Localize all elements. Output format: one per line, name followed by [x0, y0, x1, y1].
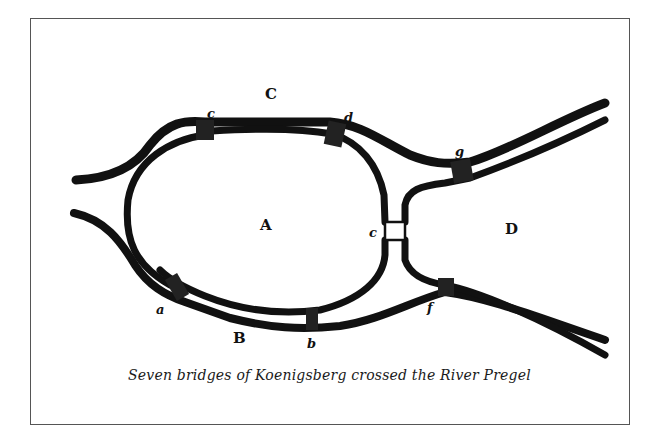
bridge-b: [306, 308, 318, 330]
bridge-label-d: d: [344, 110, 353, 125]
figure-caption: Seven bridges of Koenigsberg crossed the…: [0, 367, 659, 383]
bridge-label-b: b: [307, 336, 316, 351]
river-bank-island-top: [212, 129, 385, 222]
bridge-e: [385, 222, 405, 240]
land-label-d: D: [505, 220, 518, 238]
bridge-c: [196, 120, 214, 140]
land-label-a: A: [259, 216, 272, 234]
bridge-label-g: g: [455, 144, 464, 159]
river-bank-d-upper: [405, 120, 605, 222]
land-label-b: B: [233, 329, 246, 347]
bridge-label-e: c: [369, 225, 377, 240]
bridge-label-a: a: [156, 302, 164, 317]
bridge-g: [450, 158, 474, 183]
bridge-label-c: c: [207, 106, 215, 121]
bridge-label-f: f: [426, 300, 435, 315]
bridge-f: [438, 278, 454, 296]
land-label-c: C: [265, 85, 277, 103]
